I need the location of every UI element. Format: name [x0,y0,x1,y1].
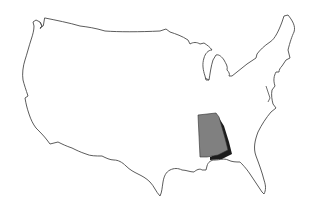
us-map-svg [0,0,315,204]
chesapeake-detail [266,86,270,102]
us-outline [23,15,295,196]
highlighted-state-alabama[interactable] [198,113,228,157]
us-map: Alabama [0,0,315,204]
